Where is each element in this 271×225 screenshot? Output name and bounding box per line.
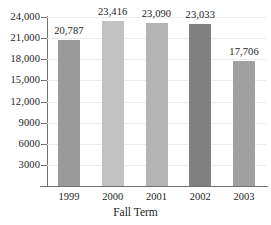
y-axis-label: 18,000	[2, 54, 40, 65]
bar	[233, 61, 255, 186]
y-axis-tick	[41, 123, 47, 124]
x-axis-title: Fall Term	[0, 206, 271, 218]
y-axis-label: 6000	[2, 139, 40, 150]
y-axis-tick	[41, 102, 47, 103]
x-axis-label: 2002	[178, 191, 222, 202]
plot-area	[47, 17, 266, 186]
bar-value-label: 23,033	[176, 10, 224, 21]
y-axis-label: 3000	[2, 160, 40, 171]
bar	[58, 40, 80, 186]
bar-value-label: 23,416	[89, 7, 137, 18]
x-axis-label: 1999	[47, 191, 91, 202]
bar-value-label: 23,090	[133, 9, 181, 20]
bar	[146, 23, 168, 186]
bar-value-label: 20,787	[45, 26, 93, 37]
x-axis-label: 2003	[222, 191, 266, 202]
y-axis-labels: 24,00021,00018,00015,00012,0009000600030…	[0, 0, 40, 225]
x-axis-label: 2001	[135, 191, 179, 202]
bar-chart: 24,00021,00018,00015,00012,0009000600030…	[0, 0, 271, 225]
y-axis-tick	[41, 59, 47, 60]
y-axis-tick	[41, 80, 47, 81]
bar	[189, 24, 211, 186]
y-axis-tick	[41, 144, 47, 145]
y-axis-tick	[41, 17, 47, 18]
y-axis-label: 21,000	[2, 33, 40, 44]
y-axis-tick	[41, 165, 47, 166]
bar	[102, 21, 124, 186]
y-axis-label: 9000	[2, 118, 40, 129]
y-axis-label: 12,000	[2, 97, 40, 108]
x-axis-label: 2000	[91, 191, 135, 202]
y-axis-tick	[41, 38, 47, 39]
y-axis-label: 15,000	[2, 75, 40, 86]
y-axis-label: 24,000	[2, 12, 40, 23]
bar-value-label: 17,706	[220, 47, 268, 58]
x-axis-line	[40, 186, 268, 187]
